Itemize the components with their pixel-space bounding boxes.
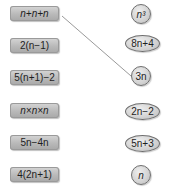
expression-text: n+n+n: [20, 8, 48, 19]
right-expression-4[interactable]: 2n−2: [125, 103, 160, 120]
left-expression-3[interactable]: 5(n+1)−2: [10, 70, 59, 85]
left-expression-5[interactable]: 5n−4n: [10, 135, 59, 150]
expression-text: 2(n−1): [20, 40, 49, 51]
right-expression-2[interactable]: 8n+4: [125, 35, 160, 52]
connection-line-nnn-to-3n: [62, 16, 131, 76]
left-expression-1[interactable]: n+n+n: [10, 6, 59, 21]
right-expression-6[interactable]: n: [131, 165, 151, 185]
right-expression-5[interactable]: 5n+3: [125, 135, 160, 152]
expression-text: 2n−2: [131, 106, 154, 117]
expression-text: 5n−4n: [20, 137, 48, 148]
connection-lines: [0, 0, 171, 191]
left-expression-6[interactable]: 4(2n+1): [10, 167, 59, 182]
left-expression-4[interactable]: n×n×n: [10, 103, 59, 118]
expression-text: 5(n+1)−2: [14, 72, 55, 83]
expression-text: 3n: [135, 71, 146, 82]
expression-text: n: [138, 170, 144, 181]
expression-text: 5n+3: [131, 138, 154, 149]
expression-text: n³: [137, 9, 146, 20]
right-expression-3[interactable]: 3n: [131, 66, 151, 86]
expression-text: 4(2n+1): [17, 169, 52, 180]
expression-text: 8n+4: [131, 38, 154, 49]
expression-text: n×n×n: [20, 105, 48, 116]
right-expression-1[interactable]: n³: [131, 4, 151, 24]
left-expression-2[interactable]: 2(n−1): [10, 38, 59, 53]
